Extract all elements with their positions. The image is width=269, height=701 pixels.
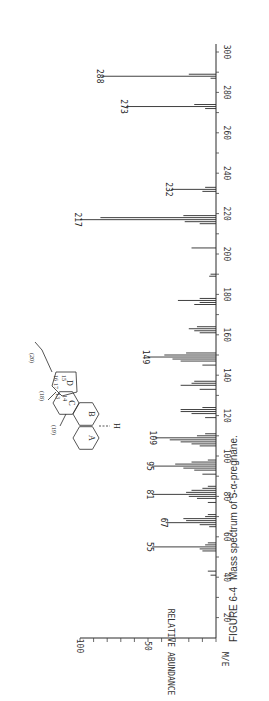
x-tick-label: 200 — [222, 247, 231, 262]
peaks — [80, 74, 216, 575]
position-label: 16 — [53, 375, 59, 381]
x-tick-label: 240 — [222, 166, 231, 181]
peak-label: 81 — [145, 490, 154, 500]
svg-text:D: D — [65, 380, 74, 386]
mass-spectrum-chart: 2040608010012014016018020022024026028030… — [0, 0, 269, 701]
axes: 2040608010012014016018020022024026028030… — [75, 44, 231, 653]
peak-label: 67 — [159, 518, 168, 528]
y-tick-label: 50 — [143, 641, 152, 651]
x-tick-label: 300 — [222, 45, 231, 60]
position-label: (18) — [38, 391, 45, 401]
ring-label: C — [67, 400, 76, 405]
peak-label: 232 — [164, 182, 173, 197]
x-tick-label: 260 — [222, 126, 231, 141]
peak-label: 109 — [148, 431, 157, 446]
x-axis-label: M/E — [220, 652, 229, 667]
ring-label: B — [87, 411, 96, 416]
peak-labels: 55678195109149217232273288 — [73, 69, 173, 552]
peak-label: 149 — [141, 350, 150, 365]
ring-label: A — [87, 435, 96, 441]
peak-label: 288 — [95, 69, 104, 84]
x-tick-label: 120 — [222, 408, 231, 423]
x-tick-label: 160 — [222, 328, 231, 343]
figure-number: FIGURE 6-4 — [228, 587, 239, 642]
y-axis-label: RELATIVE ABUNDANCE — [166, 609, 175, 696]
side-chain — [35, 342, 52, 372]
steroid-structure: ABCDH(19)(18)(20)1314151617 — [28, 342, 121, 449]
position-label: (20) — [28, 353, 35, 363]
peak-label: 55 — [145, 542, 154, 552]
position-label: (19) — [50, 425, 57, 435]
peak-label: 95 — [145, 461, 154, 471]
svg-text:H: H — [112, 423, 121, 429]
position-label: 13 — [55, 393, 61, 399]
peak-label: 217 — [73, 212, 82, 227]
x-tick-label: 180 — [222, 287, 231, 302]
x-tick-label: 140 — [222, 368, 231, 383]
peak-label: 273 — [119, 99, 128, 114]
position-label: 14 — [62, 395, 68, 401]
x-tick-label: 220 — [222, 206, 231, 221]
figure-caption: Mass spectrum of 5-α-pregnane. — [228, 435, 239, 580]
x-tick-label: 280 — [222, 85, 231, 100]
position-label: 17 — [53, 383, 59, 389]
y-tick-label: 100 — [75, 639, 84, 654]
position-label: 15 — [61, 375, 67, 381]
